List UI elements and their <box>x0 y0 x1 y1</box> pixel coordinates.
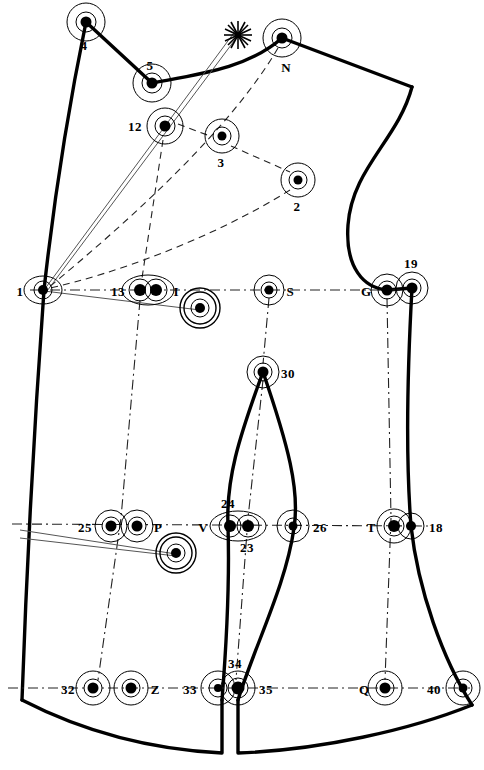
garment-outline <box>22 22 472 753</box>
label-3: 3 <box>218 155 225 170</box>
dash-3-to-2 <box>231 146 290 172</box>
guide-25-left <box>20 530 176 554</box>
left-side-seam <box>22 22 86 700</box>
dash-N-to-1 <box>48 48 278 288</box>
label-33: 33 <box>183 682 197 697</box>
left-shoulder-line <box>86 22 152 83</box>
label-5: 5 <box>147 58 154 73</box>
landmark-labels: 4 5 N 12 3 2 1 13 I S G 19 30 25 P V 24 … <box>17 38 444 697</box>
pattern-diagram: 4 5 N 12 3 2 1 13 I S G 19 30 25 P V 24 … <box>0 0 484 770</box>
landmark-25[interactable] <box>95 510 127 542</box>
label-13: 13 <box>111 284 125 299</box>
hem-right <box>238 700 472 753</box>
guide-25-left2 <box>20 538 176 556</box>
label-25: 25 <box>78 520 92 535</box>
vertical-13-25-32 <box>98 300 140 680</box>
neckline-curve <box>152 38 282 83</box>
label-32: 32 <box>61 682 75 697</box>
label-24: 24 <box>221 496 235 511</box>
landmark-12[interactable] <box>147 108 183 144</box>
label-V: V <box>198 520 208 535</box>
label-40: 40 <box>427 682 441 697</box>
label-18: 18 <box>429 520 443 535</box>
label-G: G <box>361 284 371 299</box>
label-P: P <box>154 520 162 535</box>
landmark-N[interactable] <box>263 19 301 57</box>
target-marker-waist[interactable] <box>156 533 196 573</box>
label-35: 35 <box>259 682 273 697</box>
starburst-icon <box>224 21 252 49</box>
landmark-24[interactable] <box>210 511 266 541</box>
vertical-G-T-Q <box>385 298 391 680</box>
label-S: S <box>286 284 293 299</box>
hem-left <box>22 700 222 753</box>
label-Z: Z <box>151 682 160 697</box>
label-Q: Q <box>359 682 369 697</box>
right-armhole-curve <box>348 87 412 290</box>
label-1: 1 <box>17 284 24 299</box>
label-30: 30 <box>281 366 295 381</box>
construction-dashed-lines <box>48 48 290 288</box>
centerlines-dash-dot <box>8 290 470 688</box>
landmark-32[interactable] <box>76 671 110 705</box>
label-I: I <box>173 284 178 299</box>
landmark-2[interactable] <box>281 163 315 197</box>
landmark-I[interactable] <box>145 279 167 301</box>
label-2: 2 <box>294 199 301 214</box>
label-12: 12 <box>128 119 142 134</box>
right-shoulder-line <box>282 38 412 87</box>
pattern-canvas: 4 5 N 12 3 2 1 13 I S G 19 30 25 P V 24 … <box>0 0 484 770</box>
waist-horizontal-line <box>12 524 428 526</box>
label-19: 19 <box>404 256 418 271</box>
landmark-P[interactable] <box>121 510 153 542</box>
label-34: 34 <box>228 656 242 671</box>
label-N: N <box>281 60 291 75</box>
vertical-S-30 <box>263 298 269 364</box>
landmark-13[interactable] <box>122 275 174 305</box>
dash-12-to-13 <box>142 140 163 278</box>
guide-1-to-starburst-a <box>44 30 236 290</box>
label-23: 23 <box>240 540 254 555</box>
landmark-3[interactable] <box>205 119 239 153</box>
landmark-4[interactable] <box>67 3 105 41</box>
label-26: 26 <box>313 520 327 535</box>
landmark-23[interactable] <box>237 515 259 537</box>
label-4: 4 <box>81 38 88 53</box>
landmark-markers <box>24 3 480 705</box>
label-T: T <box>367 520 376 535</box>
right-side-seam <box>408 288 472 705</box>
